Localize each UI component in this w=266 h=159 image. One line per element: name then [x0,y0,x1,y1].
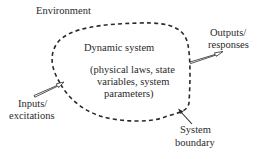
inputs-label-line: Inputs/ [18,98,47,110]
input-arrow [34,82,64,97]
system-title: Dynamic system [84,42,154,54]
boundary-label-line: System [180,124,211,136]
system-details-line: variables, system [97,76,169,88]
system-diagram: Environment Dynamic system (physical law… [0,0,266,159]
outputs-label-line: Outputs/ [210,27,246,39]
system-details-line: (physical laws, state [90,64,175,76]
environment-label: Environment [36,5,91,17]
inputs-label-line: excitations [9,110,55,122]
boundary-label-line: boundary [175,137,215,149]
boundary-pointer-arrow [178,109,192,125]
system-details-line: parameters) [104,88,154,100]
output-arrow [190,52,223,64]
outputs-label-line: responses [208,39,249,51]
